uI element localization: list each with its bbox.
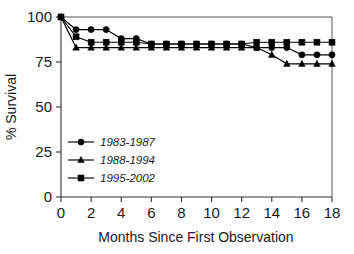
legend-marker-circle — [78, 139, 84, 145]
y-axis-title: % Survival — [3, 74, 19, 140]
chart-legend: 1983-19871988-19941995-2002 — [68, 136, 156, 184]
data-point — [299, 52, 305, 58]
data-point — [88, 39, 94, 45]
chart-container: 024681012141618 0255075100 1983-19871988… — [0, 0, 354, 254]
data-point — [254, 39, 260, 45]
data-point — [209, 41, 215, 47]
legend-label: 1995-2002 — [100, 172, 156, 184]
data-point — [314, 39, 320, 45]
data-point — [103, 39, 109, 45]
data-point — [133, 39, 139, 45]
data-point — [239, 41, 245, 47]
data-point — [88, 27, 94, 33]
legend-label: 1983-1987 — [100, 136, 156, 148]
data-point — [103, 27, 109, 33]
data-point — [58, 14, 64, 20]
y-tick-label: 0 — [44, 188, 52, 205]
y-tick-label: 100 — [27, 8, 52, 25]
x-tick-label: 12 — [233, 204, 250, 221]
data-point — [329, 52, 335, 58]
data-point — [73, 27, 79, 33]
data-point — [194, 41, 200, 47]
data-point — [224, 41, 230, 47]
data-point — [118, 39, 124, 45]
legend-marker-square — [78, 175, 84, 181]
y-tick-label: 50 — [35, 98, 52, 115]
x-tick-label: 10 — [203, 204, 220, 221]
x-tick-label: 2 — [87, 204, 95, 221]
data-point — [284, 39, 290, 45]
x-tick-label: 14 — [263, 204, 280, 221]
data-point — [329, 39, 335, 45]
y-tick-label: 75 — [35, 53, 52, 70]
survival-chart: 024681012141618 0255075100 1983-19871988… — [0, 0, 354, 254]
x-tick-label: 18 — [324, 204, 341, 221]
x-tick-label: 16 — [294, 204, 311, 221]
x-tick-label: 0 — [57, 204, 65, 221]
data-point — [178, 41, 184, 47]
x-tick-label: 6 — [147, 204, 155, 221]
data-point — [269, 39, 275, 45]
data-point — [163, 41, 169, 47]
y-tick-label: 25 — [35, 143, 52, 160]
legend-label: 1988-1994 — [100, 154, 155, 166]
x-tick-label: 8 — [177, 204, 185, 221]
data-point — [148, 41, 154, 47]
data-point — [73, 34, 79, 40]
data-point — [299, 39, 305, 45]
x-axis-title: Months Since First Observation — [98, 229, 293, 245]
data-point — [314, 52, 320, 58]
x-tick-label: 4 — [117, 204, 125, 221]
